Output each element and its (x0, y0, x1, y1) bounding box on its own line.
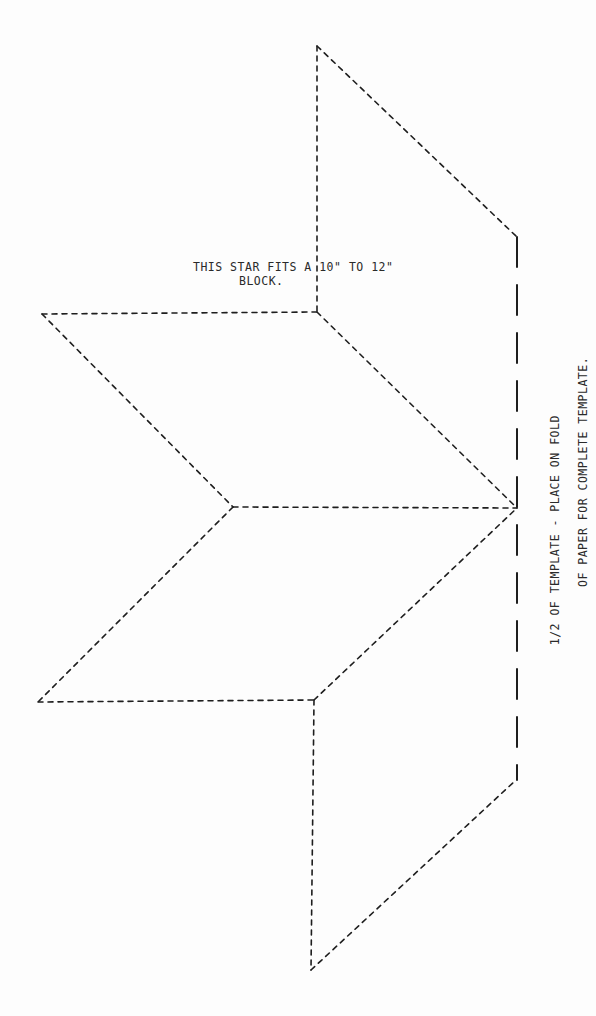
template-page: THIS STAR FITS A 10" TO 12" BLOCK. 1/2 O… (0, 0, 596, 1016)
block-size-note-line1: THIS STAR FITS A 10" TO 12" (193, 260, 393, 274)
block-size-note: THIS STAR FITS A 10" TO 12" BLOCK. (193, 260, 393, 288)
upper-left-diamond-outline (42, 312, 517, 508)
block-size-note-line2: BLOCK. (193, 274, 393, 288)
star-template-drawing (0, 0, 596, 1016)
bottom-diamond-outline (311, 700, 516, 970)
lower-left-diamond-outline (38, 507, 517, 702)
fold-instruction: 1/2 OF TEMPLATE - PLACE ON FOLD OF PAPER… (534, 357, 596, 675)
fold-instruction-line2: OF PAPER FOR COMPLETE TEMPLATE. (576, 357, 590, 675)
fold-instruction-line1: 1/2 OF TEMPLATE - PLACE ON FOLD (548, 415, 562, 645)
